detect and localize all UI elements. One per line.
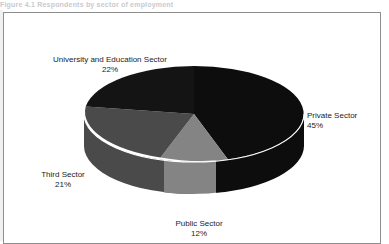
pie-label-third-sector-percent: 21%: [20, 180, 106, 190]
pie-label-university-sector-name: University and Education Sector: [53, 55, 167, 64]
pie-label-public-sector-percent: 12%: [150, 229, 248, 239]
pie-label-private-sector-name: Private Sector: [307, 111, 357, 120]
pie-label-public-sector-name: Public Sector: [175, 219, 222, 228]
figure-caption-text: Figure 4.1 Respondents by sector of empl…: [0, 0, 173, 9]
pie-label-university-sector: University and Education Sector 22%: [51, 55, 169, 75]
pie-label-university-sector-percent: 22%: [51, 65, 169, 75]
pie-label-third-sector-name: Third Sector: [41, 170, 85, 179]
figure-caption-fragment: Figure 4.1 Respondents by sector of empl…: [0, 0, 389, 10]
pie-label-private-sector: Private Sector 45%: [307, 111, 389, 131]
pie-label-third-sector: Third Sector 21%: [20, 170, 106, 190]
chart-frame: University and Education Sector 22% Priv…: [3, 12, 381, 244]
pie-label-public-sector: Public Sector 12%: [150, 219, 248, 239]
pie-label-private-sector-percent: 45%: [307, 121, 389, 131]
